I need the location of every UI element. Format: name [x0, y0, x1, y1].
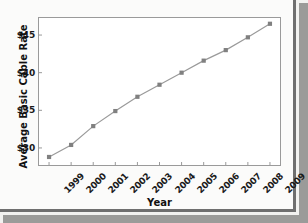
scanned-page: $30$35$40$45 199920002001200220032004200… [0, 0, 296, 212]
data-point [113, 109, 117, 113]
data-line [49, 24, 270, 157]
data-point [69, 143, 73, 147]
data-point [157, 83, 161, 87]
x-tick-label: 2007 [239, 171, 263, 195]
x-tick-label: 2005 [195, 171, 219, 195]
data-point [91, 124, 95, 128]
page-shadow-bottom [3, 215, 308, 223]
page-shadow-right [299, 3, 308, 223]
data-point [179, 71, 183, 75]
screenshot-page: $30$35$40$45 199920002001200220032004200… [0, 0, 308, 223]
x-tick-label: 2006 [217, 171, 241, 195]
y-axis-title: Average Basic Cable Rate [18, 22, 29, 172]
x-tick-label: 2004 [173, 171, 197, 195]
data-point [135, 95, 139, 99]
x-axis-title: Year [38, 197, 281, 208]
x-tick-label: 2003 [151, 171, 175, 195]
plot-canvas [38, 17, 281, 166]
x-tick-label: 2002 [128, 171, 152, 195]
x-tick-label: 1999 [62, 171, 86, 195]
data-point [246, 35, 250, 39]
data-point [268, 22, 272, 26]
data-point [202, 59, 206, 63]
data-point [224, 48, 228, 52]
x-tick-label: 2008 [261, 171, 285, 195]
x-tick-label: 2001 [106, 171, 130, 195]
data-point [47, 155, 51, 159]
line-chart: $30$35$40$45 199920002001200220032004200… [0, 0, 296, 212]
x-tick-label: 2000 [84, 171, 108, 195]
